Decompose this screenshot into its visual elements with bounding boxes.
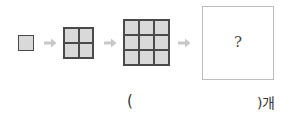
square-1x1 xyxy=(18,35,34,51)
answer-open-paren: ( xyxy=(127,92,133,110)
answer-unit: )개 xyxy=(257,92,275,112)
arrow-right-icon xyxy=(44,38,57,48)
arrow-right-icon xyxy=(104,38,117,48)
square-2x2 xyxy=(63,27,94,59)
arrow-right-icon xyxy=(178,38,191,48)
square-3x3 xyxy=(123,19,170,66)
unknown-figure-box: ? xyxy=(202,6,274,80)
question-mark: ? xyxy=(203,33,273,51)
answer-blank[interactable] xyxy=(140,92,255,108)
